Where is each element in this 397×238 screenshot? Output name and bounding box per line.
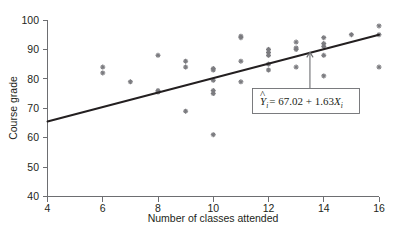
y-tick-labels: 405060708090100 xyxy=(21,14,39,203)
y-tick-marks xyxy=(43,20,48,197)
data-point xyxy=(183,65,188,70)
y-tick-label: 70 xyxy=(27,102,39,114)
x-tick-label: 14 xyxy=(318,202,330,214)
regression-equation-annotation: Yi= 67.02 + 1.63Xi ^ xyxy=(253,88,360,114)
data-point-group xyxy=(100,23,381,137)
y-axis: 405060708090100 Course grade xyxy=(7,14,48,203)
data-point xyxy=(294,40,299,45)
y-tick-label: 100 xyxy=(21,14,39,26)
data-point xyxy=(183,109,188,114)
chart-canvas: 405060708090100 Course grade 46810121416… xyxy=(0,0,397,238)
data-point xyxy=(100,70,105,75)
y-hat-accent: ^ xyxy=(260,88,266,100)
data-point xyxy=(266,68,271,73)
data-point xyxy=(211,132,216,137)
data-point xyxy=(377,23,382,28)
data-point xyxy=(377,65,382,70)
y-tick-label: 80 xyxy=(27,73,39,85)
x-axis-title: Number of classes attended xyxy=(148,212,279,224)
data-point xyxy=(321,53,326,58)
data-point xyxy=(294,65,299,70)
data-point xyxy=(321,35,326,40)
scatter-plot-figure: 405060708090100 Course grade 46810121416… xyxy=(0,0,397,238)
data-point xyxy=(321,73,326,78)
data-point xyxy=(238,79,243,84)
data-point xyxy=(349,32,354,37)
data-point xyxy=(128,79,133,84)
data-point xyxy=(238,59,243,64)
data-point xyxy=(156,53,161,58)
x-axis: 46810121416 Number of classes attended xyxy=(45,197,385,225)
y-tick-label: 90 xyxy=(27,43,39,55)
data-point xyxy=(100,65,105,70)
y-tick-label: 40 xyxy=(27,190,39,202)
x-tick-label: 16 xyxy=(373,202,385,214)
y-tick-label: 50 xyxy=(27,161,39,173)
x-tick-label: 6 xyxy=(100,202,106,214)
y-axis-title: Course grade xyxy=(7,76,19,140)
x-tick-label: 4 xyxy=(45,202,51,214)
y-tick-label: 60 xyxy=(27,131,39,143)
data-point xyxy=(183,59,188,64)
annotation-arrow-group xyxy=(307,52,313,88)
